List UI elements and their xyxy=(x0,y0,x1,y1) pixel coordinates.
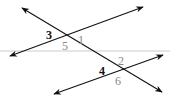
transversal-line xyxy=(22,8,162,92)
angle-label-6: 6 xyxy=(115,74,121,88)
angle-label-1: 1 xyxy=(78,33,84,47)
angle-label-2: 2 xyxy=(118,54,124,68)
parallel-line-upper xyxy=(10,7,143,56)
angle-label-5: 5 xyxy=(62,39,68,53)
parallel-line-lower xyxy=(54,55,163,94)
angle-label-3: 3 xyxy=(46,28,52,42)
diagram-svg: 3 1 5 2 4 6 xyxy=(0,0,170,104)
diagram-canvas: 3 1 5 2 4 6 xyxy=(0,0,170,104)
angle-label-4: 4 xyxy=(99,64,105,78)
